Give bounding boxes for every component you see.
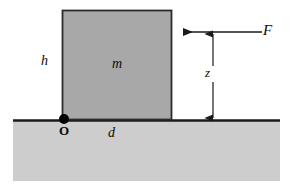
label-force-f: F: [263, 23, 272, 38]
label-origin-o: O: [59, 124, 69, 137]
label-force-height-z: z: [203, 65, 212, 80]
diagram-canvas: [0, 0, 293, 188]
label-height-h: h: [41, 54, 48, 68]
label-distance-d: d: [108, 126, 115, 140]
ground-slab: [13, 121, 280, 181]
label-mass-m: m: [112, 57, 122, 71]
physics-diagram: h m d z F O: [0, 0, 293, 188]
